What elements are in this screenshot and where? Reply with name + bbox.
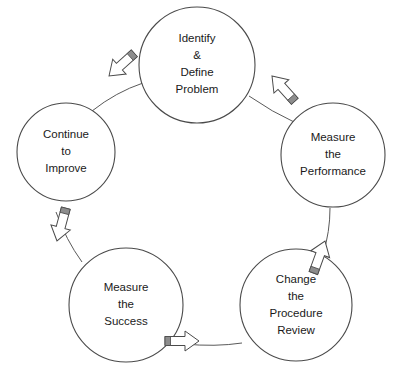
node-circles-group (17, 7, 385, 362)
node-label-measure-success-line-2: the (118, 298, 134, 310)
node-label-change-procedure-line-3: Procedure (269, 307, 322, 319)
cycle-diagram-svg: Identify & Define Problem Measure the Pe… (0, 0, 394, 376)
node-label-identify-line-3: Define (180, 66, 213, 78)
arrow-measure-success-to-continue-improve[interactable] (47, 206, 75, 244)
node-label-measure-performance-line-1: Measure (311, 131, 356, 143)
node-label-continue-improve-line-3: Improve (45, 162, 87, 174)
node-label-identify-line-2: & (193, 49, 201, 61)
node-label-continue-improve-line-1: Continue (43, 128, 89, 140)
arrow-tail-band (165, 337, 171, 346)
node-circle-change-the-procedure-review[interactable] (240, 249, 352, 361)
node-label-measure-performance-line-2: the (325, 148, 341, 160)
arrow-shape (265, 69, 303, 108)
node-label-identify-line-4: Problem (176, 83, 219, 95)
node-label-measure-success-line-1: Measure (104, 281, 149, 293)
arrow-shape (102, 46, 141, 84)
cycle-diagram-canvas: Identify & Define Problem Measure the Pe… (0, 0, 394, 376)
connector-continue-improve-to-identify (92, 83, 143, 111)
node-label-continue-improve-line-2: to (61, 145, 71, 157)
node-label-identify-line-1: Identify (178, 32, 215, 44)
node-circle-identify-define-problem[interactable] (139, 7, 255, 123)
node-label-change-procedure-line-2: the (288, 290, 304, 302)
node-label-measure-success-line-3: Success (104, 315, 148, 327)
node-label-change-procedure-line-1: Change (276, 273, 316, 285)
arrow-identify-to-measure-performance[interactable] (265, 69, 303, 108)
node-label-measure-performance-line-3: Performance (300, 165, 366, 177)
node-label-change-procedure-line-4: Review (277, 324, 315, 336)
arrow-continue-improve-to-identify[interactable] (102, 46, 141, 84)
